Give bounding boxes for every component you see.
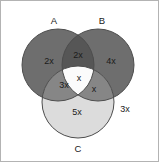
region-label-b-only: 4x [106,56,116,66]
region-label-outside: 3x [120,104,130,114]
region-label-b-and-c: x [92,84,97,94]
venn-diagram-figure: A B C 2x 2x 4x 3x x x 5x 3x [0,0,159,162]
region-label-a-and-b-and-c: x [77,73,82,83]
set-label-c: C [75,143,82,154]
venn-diagram-canvas: A B C 2x 2x 4x 3x x x 5x 3x [1,1,158,161]
set-label-b: B [99,15,105,26]
region-label-a-and-b: 2x [73,50,83,60]
region-label-a-and-c: 3x [59,80,69,90]
region-label-a-only: 2x [44,56,54,66]
region-label-c-only: 5x [72,107,82,117]
set-label-a: A [51,15,58,26]
